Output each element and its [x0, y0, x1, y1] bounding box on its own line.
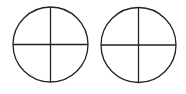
quartered-circle-2 [101, 8, 176, 83]
diagram-canvas [0, 0, 186, 94]
quartered-circle-1 [13, 7, 88, 82]
